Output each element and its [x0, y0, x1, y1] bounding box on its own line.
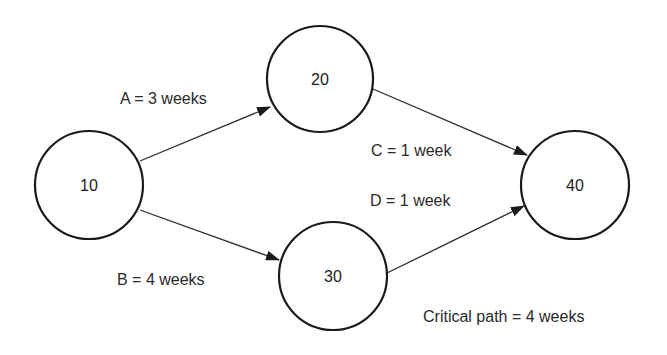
diagram-svg: 10 20 30 40 A = 3 weeks B = 4 weeks C = … [0, 0, 667, 355]
node-20: 20 [267, 26, 373, 132]
edge-d-arrow [387, 206, 524, 273]
edge-d-label: D = 1 week [370, 192, 451, 209]
node-20-label: 20 [311, 71, 329, 88]
node-30: 30 [279, 222, 387, 330]
network-diagram: 10 20 30 40 A = 3 weeks B = 4 weeks C = … [0, 0, 667, 355]
node-40: 40 [521, 131, 629, 239]
edge-b-arrow [140, 210, 279, 260]
node-10: 10 [35, 131, 143, 239]
node-30-label: 30 [324, 268, 342, 285]
edge-a-arrow [140, 107, 270, 161]
critical-path-note: Critical path = 4 weeks [423, 308, 584, 325]
node-40-label: 40 [566, 177, 584, 194]
edge-a-label: A = 3 weeks [120, 90, 207, 107]
edge-c-label: C = 1 week [371, 142, 452, 159]
edge-b-label: B = 4 weeks [117, 271, 205, 288]
node-10-label: 10 [80, 177, 98, 194]
